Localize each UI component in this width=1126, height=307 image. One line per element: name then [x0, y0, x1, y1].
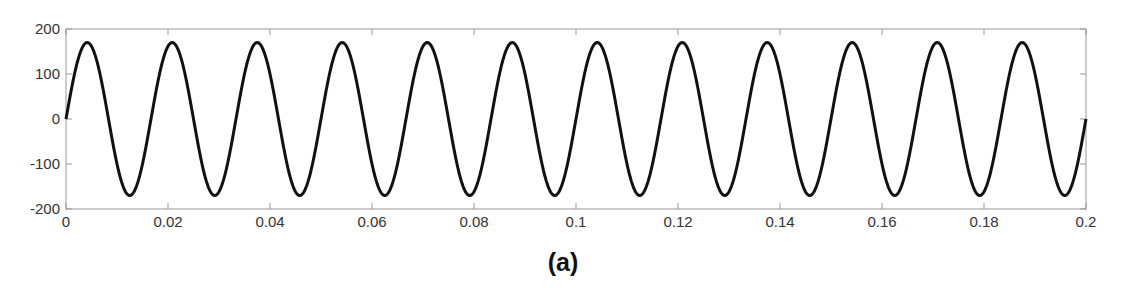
y-tick-label: 100	[35, 65, 60, 82]
x-tick-label: 0.08	[459, 213, 488, 230]
figure-caption: (a)	[0, 248, 1126, 277]
axis-tick-labels: 00.020.040.060.080.10.120.140.160.180.2-…	[30, 20, 1096, 230]
y-tick-label: 0	[52, 110, 60, 127]
x-tick-label: 0.04	[255, 213, 284, 230]
y-tick-label: -200	[30, 200, 60, 217]
sine-waveform-line	[66, 43, 1086, 196]
x-tick-label: 0	[62, 213, 70, 230]
y-tick-label: -100	[30, 155, 60, 172]
x-tick-label: 0.12	[663, 213, 692, 230]
x-tick-label: 0.06	[357, 213, 386, 230]
x-tick-label: 0.18	[969, 213, 998, 230]
x-tick-label: 0.1	[566, 213, 587, 230]
x-tick-label: 0.02	[153, 213, 182, 230]
x-tick-label: 0.14	[765, 213, 794, 230]
y-tick-label: 200	[35, 20, 60, 37]
x-tick-label: 0.2	[1076, 213, 1097, 230]
x-tick-label: 0.16	[867, 213, 896, 230]
waveform-chart: 00.020.040.060.080.10.120.140.160.180.2-…	[0, 0, 1126, 240]
